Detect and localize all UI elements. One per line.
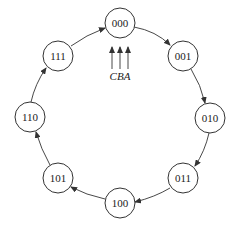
state-label: 010	[202, 112, 219, 124]
edge-001-010	[191, 69, 205, 103]
input-label: CBA	[110, 70, 131, 82]
nodes: 000 001 010 011 100 101 110 111	[15, 8, 225, 218]
state-node-111: 111	[43, 41, 73, 71]
state-label: 100	[112, 197, 129, 209]
edge-010-011	[195, 133, 209, 166]
state-node-100: 100	[105, 188, 135, 218]
state-node-110: 110	[15, 102, 45, 132]
state-label: 000	[112, 17, 129, 29]
state-label: 111	[50, 50, 66, 62]
state-label: 001	[175, 50, 192, 62]
state-node-010: 010	[195, 103, 225, 133]
state-diagram: CBA 000 001 010 011 100 101 110	[0, 0, 239, 230]
state-label: 110	[22, 111, 39, 123]
input-arrows: CBA	[110, 47, 131, 82]
state-label: 011	[175, 172, 191, 184]
edge-110-111	[31, 68, 46, 102]
edge-011-100	[135, 188, 170, 202]
edge-100-101	[71, 187, 105, 199]
edge-101-110	[36, 132, 50, 165]
edge-000-001	[134, 27, 170, 45]
edge-111-000	[71, 28, 105, 46]
state-node-101: 101	[43, 163, 73, 193]
state-node-001: 001	[168, 41, 198, 71]
state-node-000: 000	[105, 8, 135, 38]
state-label: 101	[50, 172, 67, 184]
state-node-011: 011	[168, 163, 198, 193]
